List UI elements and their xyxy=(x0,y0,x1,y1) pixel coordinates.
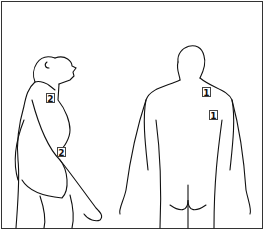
side-view-figure xyxy=(15,57,102,228)
marker-scapula-back: 1 xyxy=(209,110,218,120)
marker-abdomen-side: 2 xyxy=(57,147,66,157)
body-figures xyxy=(0,0,266,232)
marker-neck-side: 2 xyxy=(46,93,55,103)
marker-shoulder-back: 1 xyxy=(202,87,211,97)
back-view-figure xyxy=(120,46,251,228)
